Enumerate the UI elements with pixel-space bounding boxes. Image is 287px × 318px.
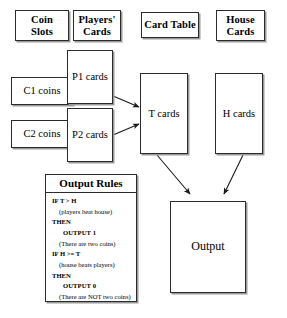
header-card-table-label: Card Table	[144, 19, 195, 31]
arrow-p2-to-tcards	[113, 124, 139, 135]
output-rule-line: OUTPUT 1	[52, 228, 136, 239]
node-output: Output	[170, 201, 246, 293]
output-rule-line: (There are two coins)	[52, 239, 136, 250]
output-rules-body: IF T > H(players beat house)THENOUTPUT 1…	[46, 193, 136, 306]
node-t-cards: T cards	[140, 73, 188, 154]
arrow-tcards-to-output	[157, 155, 190, 194]
node-output-label: Output	[191, 240, 224, 253]
output-rule-text: THEN	[52, 272, 71, 279]
node-p1-cards-label: P1 cards	[72, 71, 108, 83]
output-rules-title: Output Rules	[46, 175, 136, 193]
output-rules-panel: Output Rules IF T > H(players beat house…	[45, 174, 137, 302]
flow-diagram: Coin Slots Players' Cards Card Table Hou…	[0, 0, 287, 318]
header-players-cards: Players' Cards	[73, 10, 121, 41]
header-coin-slots-label: Coin Slots	[31, 14, 53, 38]
node-c1-coins: C1 coins	[11, 77, 73, 105]
header-house-cards: House Cards	[216, 10, 265, 41]
output-rule-text: (house beats players)	[59, 261, 115, 268]
output-rule-line: IF H >= T	[52, 249, 136, 260]
arrow-hcards-to-output	[224, 155, 243, 194]
arrow-p1-to-tcards	[113, 96, 139, 107]
node-p1-cards: P1 cards	[67, 50, 113, 104]
output-rule-line: (There are NOT two coins)	[52, 292, 136, 303]
node-p2-cards: P2 cards	[67, 108, 113, 162]
output-rule-line: OUTPUT 0	[52, 281, 136, 292]
output-rule-text: THEN	[52, 218, 71, 225]
output-rule-text: (There are NOT two coins)	[59, 293, 131, 300]
output-rule-text: OUTPUT 0	[63, 282, 96, 289]
node-h-cards-label: H cards	[223, 108, 255, 120]
node-c2-coins: C2 coins	[11, 120, 73, 148]
output-rule-line: THEN	[52, 217, 136, 228]
output-rule-text: OUTPUT 1	[63, 229, 96, 236]
node-p2-cards-label: P2 cards	[72, 129, 108, 141]
output-rule-line: (house beats players)	[52, 260, 136, 271]
header-card-table: Card Table	[141, 12, 199, 38]
node-t-cards-label: T cards	[148, 108, 179, 120]
node-c1-coins-label: C1 coins	[23, 85, 60, 97]
header-players-cards-label: Players' Cards	[79, 14, 116, 38]
output-rule-line: IF T > H	[52, 196, 136, 207]
output-rule-text: (players beat house)	[59, 208, 112, 215]
node-c2-coins-label: C2 coins	[23, 128, 60, 140]
output-rule-line: (players beat house)	[52, 207, 136, 218]
header-coin-slots: Coin Slots	[15, 10, 69, 41]
output-rule-text: IF H >= T	[52, 250, 80, 257]
node-h-cards: H cards	[215, 73, 263, 154]
output-rule-text: (There are two coins)	[59, 240, 116, 247]
output-rule-line: THEN	[52, 271, 136, 282]
header-house-cards-label: House Cards	[226, 14, 255, 38]
output-rule-text: IF T > H	[52, 197, 76, 204]
